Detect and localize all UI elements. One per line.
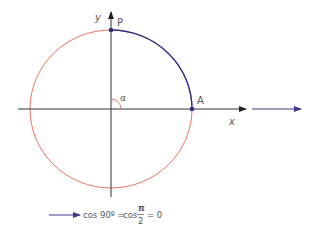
formula-frac-num: π	[138, 203, 145, 213]
formula-mid: cos	[123, 210, 138, 220]
point-p	[109, 28, 114, 33]
y-axis-label: y	[94, 12, 102, 23]
formula-left: cos 90º =	[83, 210, 125, 220]
formula-frac-den: 2	[138, 216, 143, 226]
point-a	[190, 107, 195, 112]
point-p-label: P	[117, 17, 123, 28]
angle-label: α	[120, 93, 126, 103]
formula-right: = 0	[147, 210, 162, 220]
point-a-label: A	[197, 95, 204, 106]
unit-circle-diagram: y P A x α cos 90º = cos π 2 = 0	[0, 0, 313, 235]
x-axis-label: x	[228, 116, 235, 127]
